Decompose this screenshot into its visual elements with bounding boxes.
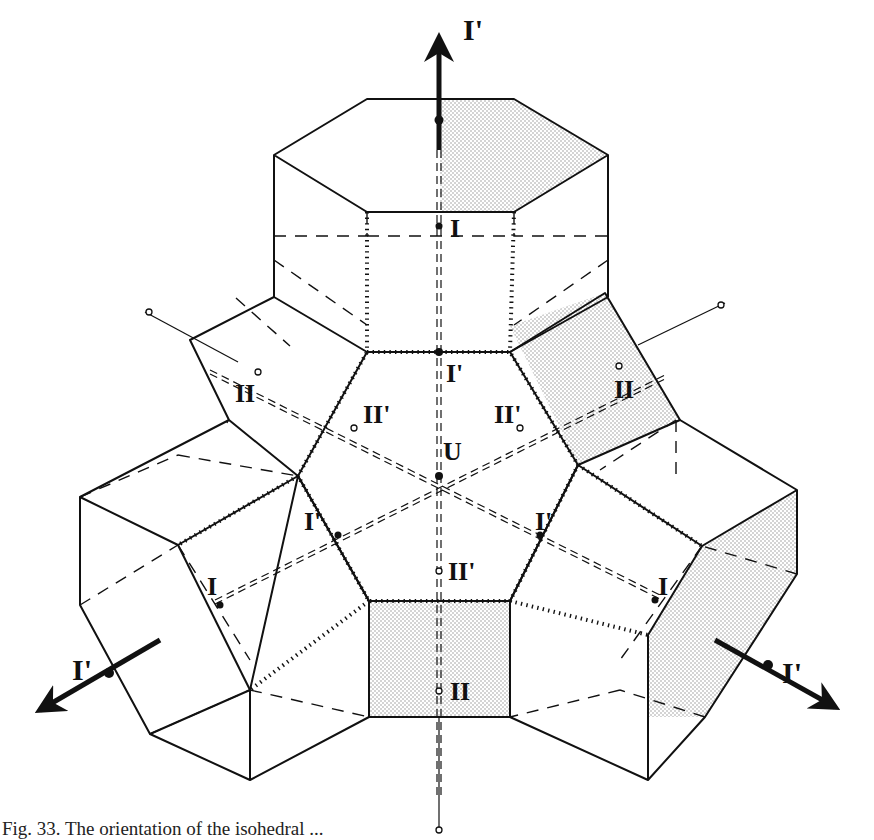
top-axis-label: I' <box>463 13 483 46</box>
right-axis-label: I' <box>782 656 802 689</box>
center-U: U <box>443 437 462 466</box>
left-II-prime: II' <box>363 400 390 429</box>
left-axis-label: I' <box>72 653 92 686</box>
shaded-faces <box>369 99 797 717</box>
right-lower-shaded-face <box>648 490 797 717</box>
right-II: II <box>614 375 634 404</box>
upper-I-prime: I' <box>446 359 463 388</box>
upper-left-rod <box>145 312 238 362</box>
left-II: II <box>235 379 255 408</box>
left-I-prime: I' <box>304 507 321 536</box>
left-axis-arrow <box>40 640 160 710</box>
right-I: I <box>658 572 668 601</box>
bottom-shaded-face <box>369 601 510 717</box>
upper-right-rod <box>638 303 725 345</box>
bottom-II: II <box>450 677 470 706</box>
figure-caption: Fig. 33. The orientation of the isohedra… <box>2 818 324 840</box>
right-I-prime: I' <box>535 507 552 536</box>
top-I: I <box>450 214 460 243</box>
top-shaded-face <box>440 99 608 212</box>
lower-II-prime: II' <box>448 557 475 586</box>
symmetry-axes <box>40 38 835 830</box>
right-II-prime: II' <box>494 400 521 429</box>
left-I: I <box>207 572 217 601</box>
